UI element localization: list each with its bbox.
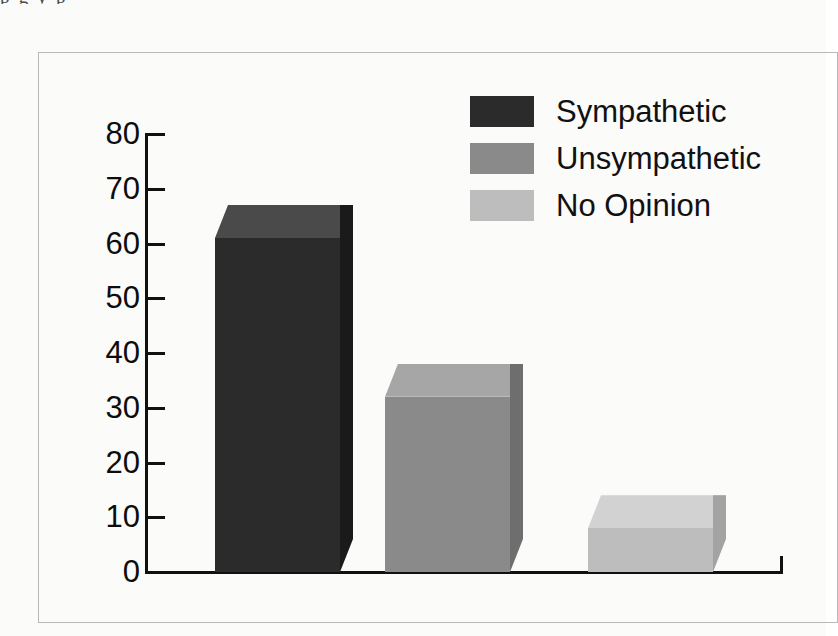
scan-top-cropped-text: p g y p [0, 0, 826, 4]
legend-item: Sympathetic [470, 88, 790, 135]
legend-label: No Opinion [556, 190, 711, 221]
legend-swatch [470, 96, 534, 127]
chart-legend: SympatheticUnsympatheticNo Opinion [470, 88, 790, 229]
legend-swatch [470, 143, 534, 174]
legend-label: Unsympathetic [556, 143, 761, 174]
legend-swatch [470, 190, 534, 221]
legend-label: Sympathetic [556, 96, 727, 127]
legend-item: No Opinion [470, 182, 790, 229]
legend-item: Unsympathetic [470, 135, 790, 182]
